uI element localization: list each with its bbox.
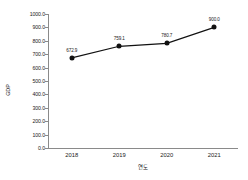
data-marker [117,44,122,49]
gdp-line-chart: 1000.0900.0800.0700.0600.0500.0400.0300.… [0,0,248,180]
series-polyline [72,27,215,57]
data-point-label: 672.9 [66,48,77,53]
data-marker [212,25,217,30]
data-point-label: 759.1 [114,36,125,41]
data-marker [164,41,169,46]
data-point-label: 900.0 [209,17,220,22]
data-marker [69,55,74,60]
data-point-label: 780.7 [161,33,172,38]
